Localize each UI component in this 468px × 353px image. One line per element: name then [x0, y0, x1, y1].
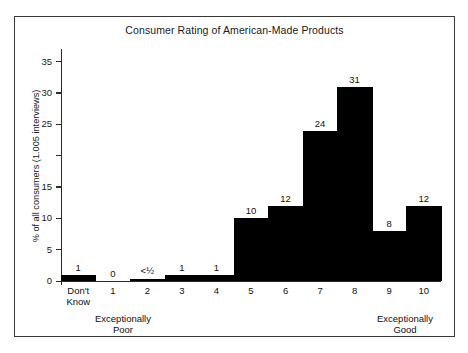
- bar: [165, 275, 200, 281]
- bar: [199, 275, 234, 281]
- y-axis-tick-label: 25: [26, 119, 52, 129]
- x-axis-tick-label: 10: [392, 285, 455, 296]
- y-axis-tick-label: 15: [26, 182, 52, 192]
- y-axis-tick-label: 5: [26, 245, 52, 255]
- bar-value-label: 12: [396, 194, 451, 204]
- anchor-high-line2: Good: [357, 324, 453, 335]
- anchor-high: Exceptionally Good: [357, 313, 453, 335]
- bar: [130, 279, 165, 282]
- bar: [303, 131, 338, 281]
- bar-value-label: 31: [327, 75, 382, 85]
- y-axis-tick-label: 35: [26, 57, 52, 67]
- bar: [268, 206, 303, 281]
- anchor-high-line1: Exceptionally: [357, 313, 453, 324]
- anchor-low: Exceptionally Poor: [75, 313, 171, 335]
- plot-area: 051015253035 10<½1110122431812: [61, 49, 441, 285]
- bar: [406, 206, 441, 281]
- bar: [234, 218, 269, 281]
- chart-title: Consumer Rating of American-Made Product…: [15, 24, 454, 36]
- y-axis-tick-label: 10: [26, 213, 52, 223]
- y-axis-tick-label: 30: [26, 88, 52, 98]
- bar-series: 10<½1110122431812: [61, 49, 441, 281]
- x-axis-labels: Don'tKnow12345678910: [61, 285, 441, 297]
- x-axis-tick-label-line2: Know: [47, 296, 110, 307]
- anchor-low-line1: Exceptionally: [75, 313, 171, 324]
- x-axis-line: [61, 281, 441, 282]
- chart-frame: Consumer Rating of American-Made Product…: [14, 16, 455, 337]
- bar: [337, 87, 372, 281]
- bar: [372, 231, 407, 281]
- anchor-low-line2: Poor: [75, 324, 171, 335]
